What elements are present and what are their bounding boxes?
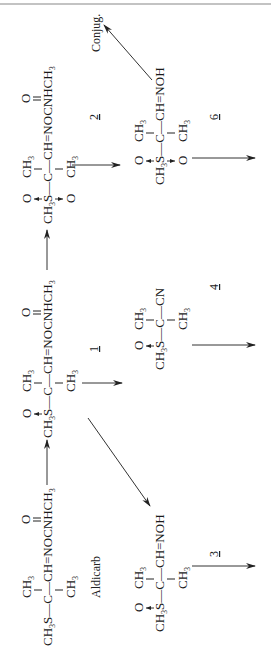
c2-carbonyl-oxygen: O	[18, 94, 33, 103]
pathway-diagram: CH3 CH3S—C—CH=NOCNHCH3 CH3 O Aldicarb O …	[0, 0, 271, 670]
c2-s-oxide-top-oxygen: O	[19, 194, 34, 203]
c6-main-chain: CH3S—C—CH=NOH	[152, 67, 169, 185]
aldicarb-label: Aldicarb	[89, 556, 103, 598]
c1-main-chain: CH3S—C—CH=NOCNHCH3	[40, 280, 57, 438]
c6-s-oxide-bottom-oxygen: O	[175, 156, 190, 165]
c6-bottom-methyl: CH3	[175, 120, 192, 142]
c1-bottom-methyl: CH3	[63, 370, 80, 392]
c4-bottom-methyl: CH3	[175, 308, 192, 330]
compound-3: O CH3 CH3S—C—CH=NOH CH3 3	[131, 514, 221, 632]
c2-s-oxide-bottom-oxygen: O	[63, 194, 78, 203]
compound-aldicarb: CH3 CH3S—C—CH=NOCNHCH3 CH3 O Aldicarb	[18, 488, 103, 646]
compound-number-3: 3	[207, 551, 221, 557]
compound-6: O CH3 CH3S—C—CH=NOH O CH3 6	[131, 67, 221, 185]
conjugate-label: Conjug.	[89, 14, 103, 52]
c6-top-methyl: CH3	[131, 120, 148, 142]
compound-number-6: 6	[207, 114, 221, 120]
c1-s-oxide-oxygen: O	[19, 409, 34, 418]
compound-number-2: 2	[87, 114, 101, 120]
compound-4: O CH3 CH3S—C—CN CH3 4	[131, 284, 221, 370]
arrow-aldicarb-to-3	[88, 418, 150, 506]
compound-2: O CH3 CH3S—C—CH=NOCNHCH3 O CH3 O 2	[18, 66, 101, 224]
c2-bottom-methyl: CH3	[63, 156, 80, 178]
aldicarb-carbonyl-oxygen: O	[18, 515, 33, 524]
c1-carbonyl-oxygen: O	[18, 308, 33, 317]
c2-top-methyl: CH3	[19, 156, 36, 178]
c1-top-methyl: CH3	[19, 370, 36, 392]
c3-top-methyl: CH3	[131, 567, 148, 589]
aldicarb-top-methyl: CH3	[19, 576, 36, 598]
arrow-6-to-conjugate	[104, 25, 152, 80]
compound-number-1: 1	[87, 346, 101, 352]
compound-1: O CH3 CH3S—C—CH=NOCNHCH3 CH3 O 1	[18, 280, 101, 438]
c3-bottom-methyl: CH3	[175, 567, 192, 589]
c4-top-methyl: CH3	[131, 308, 148, 330]
rotated-diagram-page: CH3 CH3S—C—CH=NOCNHCH3 CH3 O Aldicarb O …	[0, 0, 271, 670]
c3-main-chain: CH3S—C—CH=NOH	[152, 514, 169, 632]
c3-s-oxide-oxygen: O	[131, 603, 146, 612]
c2-main-chain: CH3S—C—CH=NOCNHCH3	[40, 66, 57, 224]
compound-number-4: 4	[207, 284, 221, 290]
c4-s-oxide-oxygen: O	[131, 341, 146, 350]
c4-main-chain: CH3S—C—CN	[152, 287, 169, 370]
aldicarb-main-chain: CH3S—C—CH=NOCNHCH3	[40, 488, 57, 646]
aldicarb-bottom-methyl: CH3	[63, 576, 80, 598]
c6-s-oxide-top-oxygen: O	[131, 156, 146, 165]
